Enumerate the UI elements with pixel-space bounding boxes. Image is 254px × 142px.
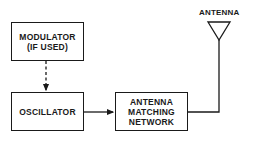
oscillator-block: OSCILLATOR: [11, 92, 84, 131]
wire-matching-network-to-antenna: [188, 40, 219, 112]
antenna-label: ANTENNA: [199, 8, 240, 17]
matching-network-label-line1: ANTENNA: [130, 97, 173, 107]
antenna-icon: [208, 22, 230, 40]
oscillator-label: OSCILLATOR: [19, 107, 75, 117]
modulator-label-line1: MODULATOR: [19, 32, 75, 42]
matching-network-label-line3: NETWORK: [129, 117, 174, 127]
modulator-block: MODULATOR (IF USED): [11, 22, 84, 61]
modulator-label-line2: (IF USED): [27, 42, 68, 52]
antenna-matching-network-block: ANTENNA MATCHING NETWORK: [115, 92, 188, 131]
matching-network-label-line2: MATCHING: [128, 107, 175, 117]
